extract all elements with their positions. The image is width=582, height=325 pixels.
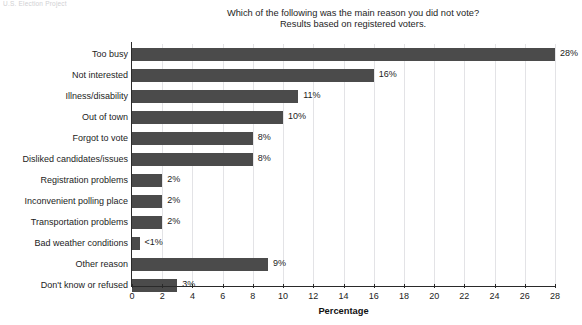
x-tick-label-16: 16 [369,291,379,301]
bar-not-interested [132,69,374,82]
bar-row: 8% [132,149,555,170]
bar-disliked-candidates-issues [132,153,253,166]
category-label-illness-disability: Illness/disability [0,86,128,107]
bar-series: 28%16%11%10%8%8%2%2%2%<1%9%3% [132,44,555,286]
category-label-forgot-to-vote: Forgot to vote [0,128,128,149]
bar-value-forgot-to-vote: 8% [258,131,271,144]
gridline-28 [555,44,556,286]
x-tick-label-14: 14 [338,291,348,301]
bar-value-transportation-problems: 2% [167,215,180,228]
x-tick-label-10: 10 [278,291,288,301]
x-tick-label-8: 8 [250,291,255,301]
x-tick-mark-22 [464,284,465,288]
bar-registration-problems [132,174,162,187]
x-axis-ticks: 0246810121416182022242628 [132,288,555,304]
x-tick-mark-24 [495,284,496,288]
x-tick-mark-8 [253,284,254,288]
x-tick-label-28: 28 [550,291,560,301]
bar-chart: Too busyNot interestedIllness/disability… [0,0,582,325]
x-tick-mark-18 [404,284,405,288]
x-tick-label-20: 20 [429,291,439,301]
x-tick-label-26: 26 [520,291,530,301]
x-tick-mark-0 [132,284,133,288]
category-label-don-t-know-or-refused: Don't know or refused [0,275,128,296]
x-axis-title: Percentage [132,306,555,316]
x-tick-label-2: 2 [160,291,165,301]
bar-row: 2% [132,212,555,233]
x-tick-mark-6 [223,284,224,288]
x-tick-mark-26 [525,284,526,288]
bar-value-out-of-town: 10% [288,110,306,123]
x-tick-mark-20 [434,284,435,288]
x-tick-mark-12 [313,284,314,288]
bar-value-bad-weather-conditions: <1% [145,236,163,249]
category-label-out-of-town: Out of town [0,107,128,128]
category-label-bad-weather-conditions: Bad weather conditions [0,233,128,254]
bar-row: 8% [132,128,555,149]
bar-row: 11% [132,86,555,107]
bar-value-illness-disability: 11% [303,89,320,102]
x-tick-mark-16 [374,284,375,288]
x-tick-mark-28 [555,284,556,288]
x-tick-mark-10 [283,284,284,288]
bar-inconvenient-polling-place [132,195,162,208]
x-tick-label-12: 12 [308,291,318,301]
bar-too-busy [132,48,555,61]
x-tick-mark-14 [344,284,345,288]
x-tick-label-24: 24 [490,291,500,301]
category-label-too-busy: Too busy [0,44,128,65]
bar-row: 16% [132,65,555,86]
category-label-registration-problems: Registration problems [0,170,128,191]
x-tick-mark-4 [192,284,193,288]
bar-value-disliked-candidates-issues: 8% [258,152,271,165]
bar-row: <1% [132,233,555,254]
y-axis-line [131,42,132,287]
bar-illness-disability [132,90,298,103]
x-tick-mark-2 [162,284,163,288]
category-label-transportation-problems: Transportation problems [0,212,128,233]
bar-other-reason [132,258,268,271]
bar-row: 2% [132,170,555,191]
x-tick-label-18: 18 [399,291,409,301]
bar-value-inconvenient-polling-place: 2% [167,194,180,207]
bar-transportation-problems [132,216,162,229]
bar-value-not-interested: 16% [379,68,397,81]
plot-area: 28%16%11%10%8%8%2%2%2%<1%9%3% [132,44,555,286]
x-tick-label-0: 0 [129,291,134,301]
bar-forgot-to-vote [132,132,253,145]
category-label-not-interested: Not interested [0,65,128,86]
category-label-other-reason: Other reason [0,254,128,275]
x-tick-label-22: 22 [459,291,469,301]
bar-row: 28% [132,44,555,65]
bar-value-too-busy: 28% [560,47,578,60]
category-label-inconvenient-polling-place: Inconvenient polling place [0,191,128,212]
bar-row: 10% [132,107,555,128]
bar-value-registration-problems: 2% [167,173,180,186]
category-label-disliked-candidates-issues: Disliked candidates/issues [0,149,128,170]
bar-row: 9% [132,254,555,275]
bar-value-other-reason: 9% [273,257,286,270]
bar-row: 2% [132,191,555,212]
bar-bad-weather-conditions [132,237,140,250]
bar-out-of-town [132,111,283,124]
x-tick-label-6: 6 [220,291,225,301]
x-tick-label-4: 4 [190,291,195,301]
